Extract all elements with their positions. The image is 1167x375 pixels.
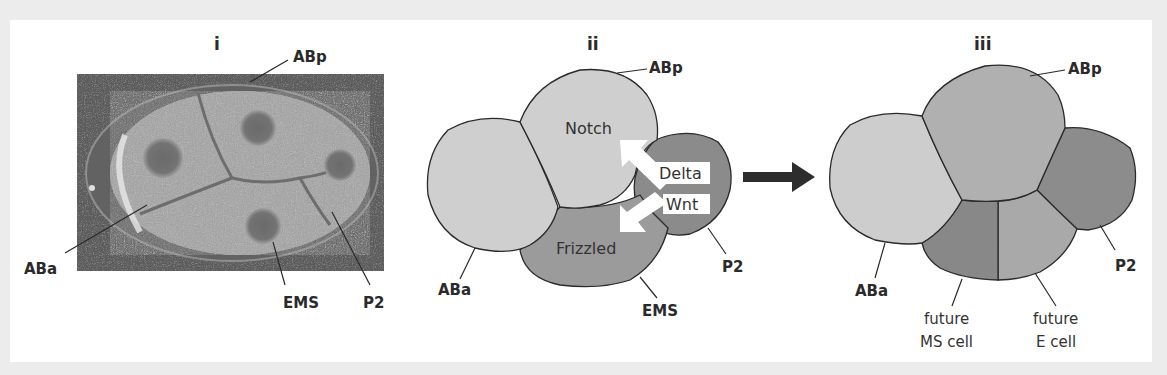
ligand-delta: Delta (659, 164, 702, 183)
label-ii-ABp: ABp (649, 59, 683, 77)
panel-iii-label: iii (974, 34, 991, 54)
label-iii-E-line2: E cell (1036, 333, 1076, 351)
label-iii-E-line1: future (1033, 310, 1078, 328)
panel-i: i (24, 34, 384, 312)
label-iii-ABp: ABp (1068, 60, 1102, 78)
panel-ii-label: ii (587, 34, 599, 54)
panel-i-label: i (214, 34, 220, 54)
right-arrow-icon (743, 162, 815, 192)
label-i-P2: P2 (363, 294, 384, 312)
label-i-ABp: ABp (293, 48, 327, 66)
ligand-wnt: Wnt (666, 195, 698, 214)
figure-canvas: i (0, 0, 1167, 375)
panel-iii: iii ABp ABa P2 future MS cell future E c… (830, 34, 1137, 351)
label-i-EMS: EMS (283, 294, 319, 312)
receptor-notch: Notch (565, 119, 612, 138)
label-iii-MS-line1: future (924, 310, 969, 328)
label-ii-EMS: EMS (642, 302, 678, 320)
label-iii-P2: P2 (1115, 257, 1136, 275)
label-ii-ABa: ABa (438, 281, 471, 299)
label-i-ABa: ABa (24, 260, 57, 278)
label-iii-MS-line2: MS cell (920, 333, 973, 351)
embryo-micrograph (77, 74, 384, 271)
label-iii-ABa: ABa (855, 282, 888, 300)
label-ii-P2: P2 (722, 258, 743, 276)
receptor-frizzled: Frizzled (556, 239, 616, 258)
panel-ii: ii Delta Wnt Notch Frizzled ABp ABa (427, 34, 743, 320)
